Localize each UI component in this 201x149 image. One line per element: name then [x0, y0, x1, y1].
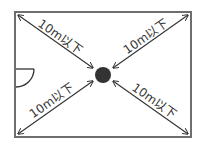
distance-label-top-right: 10m以下: [121, 16, 171, 57]
distance-label-top-left: 10m以下: [35, 16, 85, 57]
door-icon: [16, 69, 34, 87]
center-point: [95, 67, 111, 83]
room-diagram: 10m以下 10m以下 10m以下 10m以下: [0, 0, 201, 149]
distance-label-bottom-left: 10m以下: [27, 80, 77, 121]
distance-label-bottom-right: 10m以下: [129, 80, 179, 121]
